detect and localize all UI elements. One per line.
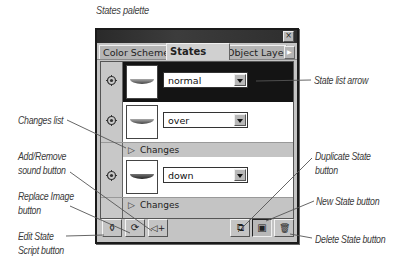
changes-spacer xyxy=(101,143,123,157)
callout-edit-state-script-line1: Edit State xyxy=(18,230,54,243)
state-list-arrow-icon[interactable] xyxy=(234,74,246,86)
state-thumbnail xyxy=(126,160,158,194)
states-palette: × Color Scheme States Object Layers ▶ no… xyxy=(95,28,299,244)
callout-new-state: New State button xyxy=(316,195,379,208)
replace-image-button[interactable]: ⟳ xyxy=(125,219,145,237)
state-list-arrow-icon[interactable] xyxy=(234,114,246,126)
duplicate-state-button[interactable]: ⧉ xyxy=(230,219,250,237)
state-row-normal[interactable]: normal xyxy=(101,62,293,102)
disclosure-triangle-icon[interactable]: ▷ xyxy=(128,145,135,155)
callout-add-remove-sound-line2: sound button xyxy=(18,164,66,177)
add-remove-sound-button[interactable]: ◁+ xyxy=(148,219,168,237)
callout-add-remove-sound-line1: Add/Remove xyxy=(18,150,66,163)
new-state-button[interactable]: ▣ xyxy=(252,219,272,237)
figure-title: States palette xyxy=(96,4,149,17)
target-icon xyxy=(106,115,117,126)
tab-states[interactable]: States xyxy=(166,43,230,60)
replace-icon: ⟳ xyxy=(131,222,139,233)
changes-label: Changes xyxy=(140,144,179,156)
state-content: over xyxy=(123,102,293,142)
state-select[interactable]: over xyxy=(163,112,248,128)
changes-spacer xyxy=(101,198,123,218)
callout-changes-list: Changes list xyxy=(18,114,63,127)
script-icon: ⚱ xyxy=(108,222,116,233)
tab-color-scheme[interactable]: Color Scheme xyxy=(99,45,173,59)
state-content: down xyxy=(123,157,293,197)
palette-toolbar: ⚱ ⟳ ◁+ ⧉ ▣ 🗑 xyxy=(100,219,294,239)
palette-titlebar[interactable]: × xyxy=(97,30,297,43)
state-list: normal over ▷ Changes xyxy=(100,61,294,219)
callout-delete-state: Delete State button xyxy=(315,233,385,246)
state-thumbnail xyxy=(126,65,158,99)
state-target-column[interactable] xyxy=(101,102,123,142)
callout-edit-state-script-line2: Script button xyxy=(18,244,64,257)
callout-replace-image-line2: button xyxy=(18,204,41,217)
state-name: over xyxy=(168,113,189,128)
tab-scroll-arrow-icon[interactable]: ▶ xyxy=(284,46,295,59)
duplicate-icon: ⧉ xyxy=(237,222,244,233)
changes-list-down[interactable]: ▷ Changes xyxy=(101,197,293,218)
new-state-icon: ▣ xyxy=(257,222,266,233)
tab-object-layers[interactable]: Object Layers xyxy=(223,45,287,59)
delete-state-button[interactable]: 🗑 xyxy=(274,219,294,237)
callout-replace-image-line1: Replace Image xyxy=(18,190,74,203)
callout-state-list-arrow: State list arrow xyxy=(314,74,368,87)
callout-duplicate-state-line1: Duplicate State xyxy=(315,150,371,163)
target-icon xyxy=(106,170,117,181)
changes-list-over[interactable]: ▷ Changes xyxy=(101,142,293,157)
state-content: normal xyxy=(123,62,293,102)
state-row-over[interactable]: over xyxy=(101,102,293,142)
palette-tabs: Color Scheme States Object Layers ▶ xyxy=(97,43,297,60)
state-name: normal xyxy=(168,73,201,88)
trash-icon: 🗑 xyxy=(279,223,290,233)
state-select[interactable]: down xyxy=(163,167,248,183)
state-target-column[interactable] xyxy=(101,62,123,102)
disclosure-triangle-icon[interactable]: ▷ xyxy=(128,200,135,210)
state-name: down xyxy=(168,168,194,183)
callout-duplicate-state-line2: button xyxy=(315,164,338,177)
sound-icon: ◁+ xyxy=(151,223,165,233)
state-list-arrow-icon[interactable] xyxy=(234,169,246,181)
state-target-column[interactable] xyxy=(101,157,123,197)
close-icon[interactable]: × xyxy=(283,31,294,42)
changes-label: Changes xyxy=(140,199,179,211)
state-select[interactable]: normal xyxy=(163,72,248,88)
state-row-down[interactable]: down xyxy=(101,157,293,197)
state-thumbnail xyxy=(126,105,158,139)
edit-state-script-button[interactable]: ⚱ xyxy=(102,219,122,237)
target-icon xyxy=(106,75,117,86)
